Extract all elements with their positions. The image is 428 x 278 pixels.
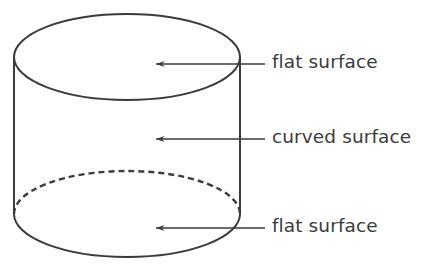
bottom-flat-surface-back-arc [14,171,240,214]
bottom-flat-surface-front-arc [14,214,240,257]
top-flat-surface-ellipse [14,14,240,100]
cylinder-diagram: flat surface curved surface flat surface [0,0,428,278]
top-flat-surface-label: flat surface [272,53,378,72]
bottom-flat-surface-label: flat surface [272,217,378,236]
curved-surface-label: curved surface [272,128,411,147]
